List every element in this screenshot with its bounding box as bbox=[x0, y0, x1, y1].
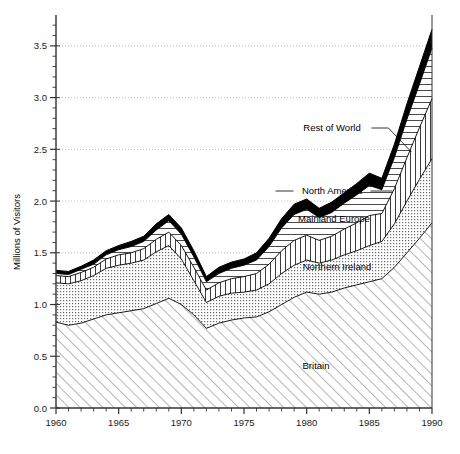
annotation-label: North America bbox=[302, 185, 363, 196]
x-tick-label: 1980 bbox=[296, 417, 317, 428]
annotation-label: Rest of World bbox=[303, 122, 360, 133]
x-tick-label: 1990 bbox=[421, 417, 442, 428]
x-tick-label: 1960 bbox=[45, 417, 66, 428]
x-tick-label: 1985 bbox=[359, 417, 380, 428]
y-tick-label: 2.5 bbox=[34, 144, 47, 155]
x-tick-label: 1970 bbox=[171, 417, 192, 428]
annotation-label: Northern Ireland bbox=[303, 261, 372, 272]
y-tick-label: 1.5 bbox=[34, 247, 47, 258]
y-tick-label: 2.0 bbox=[34, 196, 47, 207]
y-tick-label: 3.0 bbox=[34, 92, 47, 103]
y-tick-label: 3.5 bbox=[34, 40, 47, 51]
stacked-area-chart: 1960196519701975198019851990 0.00.51.01.… bbox=[0, 0, 460, 454]
annotation-label: Britain bbox=[303, 360, 330, 371]
y-tick-label: 1.0 bbox=[34, 299, 47, 310]
annotation-label: Mainland Europe bbox=[298, 213, 370, 224]
y-tick-label: 0.0 bbox=[34, 403, 47, 414]
x-tick-label: 1975 bbox=[233, 417, 254, 428]
chart-canvas: 1960196519701975198019851990 0.00.51.01.… bbox=[0, 0, 460, 454]
y-tick-label: 0.5 bbox=[34, 351, 47, 362]
x-tick-label: 1965 bbox=[108, 417, 129, 428]
y-axis-label: Millions of Visitors bbox=[11, 194, 22, 270]
